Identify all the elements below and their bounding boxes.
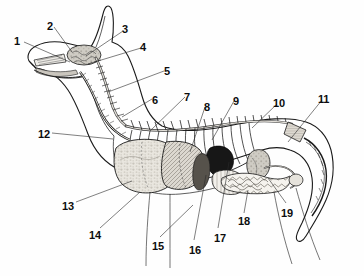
leader-line-13 [76, 181, 132, 202]
label-number-3: 3 [122, 24, 128, 35]
label-number-2: 2 [47, 21, 53, 32]
label-number-17: 17 [214, 233, 226, 244]
limb-contours [146, 188, 320, 268]
label-number-16: 16 [189, 245, 201, 256]
label-number-10: 10 [273, 98, 285, 109]
anatomy-figure: 12345678910111213141516171819 [0, 0, 364, 276]
label-number-18: 18 [238, 216, 250, 227]
label-number-15: 15 [152, 241, 164, 252]
label-number-19: 19 [281, 208, 293, 219]
label-number-9: 9 [233, 96, 239, 107]
label-number-4: 4 [140, 42, 146, 53]
leader-line-14 [100, 192, 140, 228]
label-number-13: 13 [62, 201, 74, 212]
label-number-12: 12 [38, 129, 50, 140]
dog-anatomy-illustration [0, 0, 364, 276]
label-number-14: 14 [89, 230, 101, 241]
label-number-8: 8 [204, 102, 210, 113]
label-number-1: 1 [14, 36, 20, 47]
label-number-6: 6 [152, 95, 158, 106]
label-number-7: 7 [184, 92, 190, 103]
label-number-5: 5 [164, 66, 170, 77]
label-number-11: 11 [318, 94, 329, 105]
leader-line-15 [160, 205, 193, 237]
